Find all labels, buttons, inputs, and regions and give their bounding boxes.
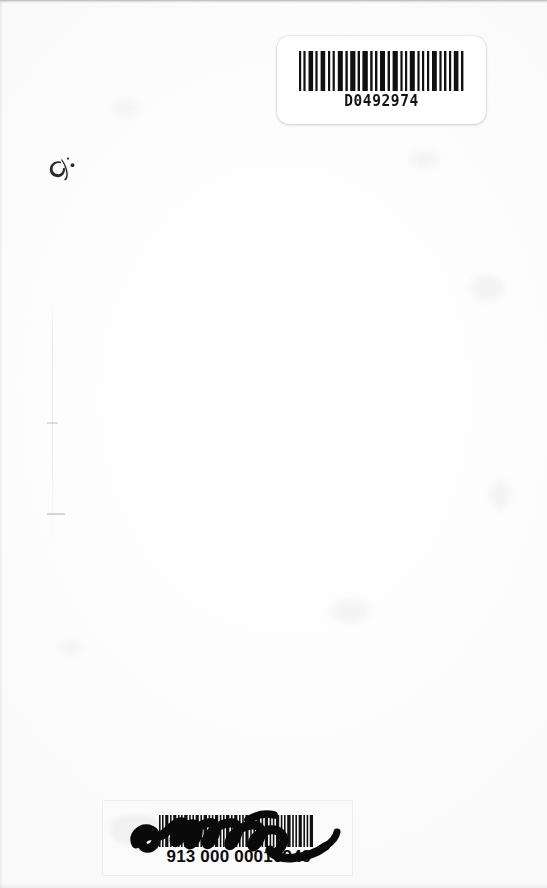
handwritten-ink-glyph xyxy=(46,151,84,189)
margin-tick-lower xyxy=(47,513,65,515)
scan-smudge xyxy=(490,480,510,510)
bottom-barcode-number: 913 000 00010949 xyxy=(149,847,329,867)
scan-edge-top xyxy=(0,0,547,4)
bottom-barcode-bars xyxy=(159,815,313,847)
scanned-page: D0492974 xyxy=(0,0,547,888)
scan-smudge xyxy=(330,600,370,622)
margin-tick-upper xyxy=(47,422,58,424)
top-barcode-bars xyxy=(299,51,465,91)
scan-edge-left xyxy=(0,0,3,888)
paper-background xyxy=(0,0,547,888)
top-barcode-sticker: D0492974 xyxy=(277,36,486,124)
bottom-barcode-sticker: 913 000 00010949 xyxy=(103,801,352,875)
top-barcode-number: D0492974 xyxy=(277,93,486,110)
scan-edge-bottom xyxy=(0,883,547,888)
scan-smudge xyxy=(112,100,138,116)
scan-smudge xyxy=(60,640,82,654)
scan-smudge xyxy=(470,275,504,301)
scan-smudge xyxy=(410,150,438,168)
sticker-smudge xyxy=(111,815,161,845)
